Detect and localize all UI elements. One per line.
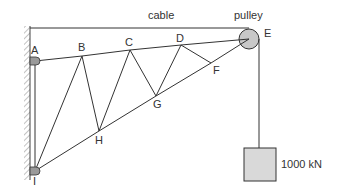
joint-label-H: H [95,134,103,146]
member-FE [211,39,249,63]
truss-members [35,39,249,171]
member-AB [35,56,82,61]
joint-label-E: E [264,27,271,39]
joint-label-A: A [31,44,39,56]
member-BC [82,50,130,56]
cable-label: cable [148,9,174,21]
member-BH [82,56,99,131]
member-CG [130,50,156,96]
joint-label-G: G [153,98,162,110]
load-label: 1000 kN [281,158,322,170]
member-DE [181,39,249,45]
truss-diagram: cable pulley 1000 kN A B C D E F G H I [0,0,340,196]
load-block [244,148,276,181]
joint-label-D: D [176,32,184,44]
member-HG [99,96,156,131]
joint-label-C: C [125,36,133,48]
joint-label-I: I [33,175,36,187]
member-IH [35,131,99,171]
member-DF [181,45,211,63]
support-I [30,167,40,175]
support-A [30,57,40,65]
wall [24,26,30,180]
joint-label-B: B [78,41,85,53]
member-CD [130,45,181,50]
pulley-label: pulley [234,9,263,21]
joint-label-F: F [213,64,220,76]
member-HC [99,50,130,131]
member-IB [35,56,82,171]
